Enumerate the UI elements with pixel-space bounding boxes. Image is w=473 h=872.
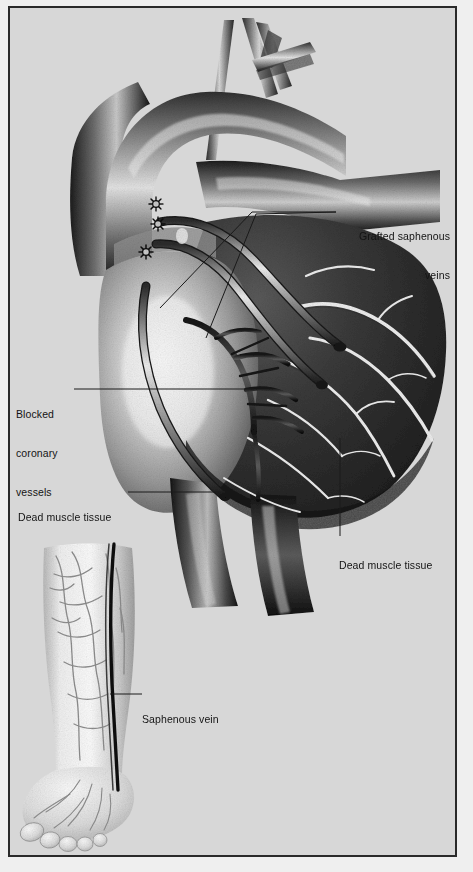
illustration-plate: Grafted saphenous veins Blocked coronary… <box>8 6 457 857</box>
illustration-page: Grafted saphenous veins Blocked coronary… <box>0 0 473 872</box>
label-line: coronary <box>16 447 58 460</box>
label-line: Blocked <box>16 408 58 421</box>
label-saphenous-vein: Saphenous vein <box>142 687 219 752</box>
label-dead-muscle-tissue-right: Dead muscle tissue <box>339 533 432 598</box>
label-dead-muscle-tissue-left: Dead muscle tissue <box>18 485 111 550</box>
label-grafted-saphenous-veins: Grafted saphenous veins <box>294 204 450 308</box>
lower-leg <box>43 544 135 779</box>
label-line: Saphenous vein <box>142 713 219 726</box>
label-line: Dead muscle tissue <box>18 511 111 524</box>
label-line: veins <box>294 269 450 282</box>
label-line: Grafted saphenous <box>294 230 450 243</box>
label-line: Dead muscle tissue <box>339 559 432 572</box>
anatomical-artwork <box>10 8 455 855</box>
